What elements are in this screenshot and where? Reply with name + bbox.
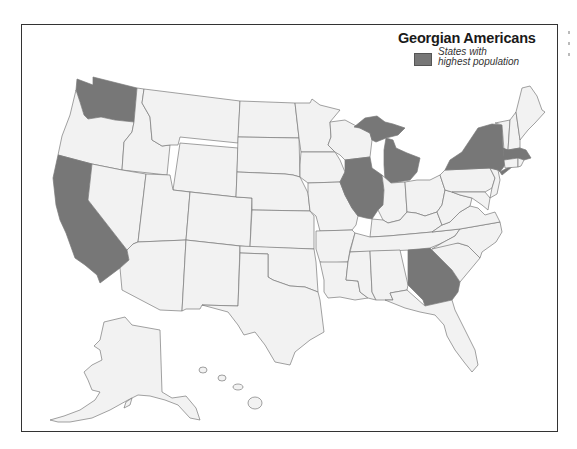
legend-label: States with highest population [438,47,548,67]
state-kansas[interactable] [250,210,314,249]
state-michigan-lower[interactable] [384,138,420,183]
state-wyoming[interactable] [173,143,238,197]
hawaii-maui [233,384,243,390]
edge-marks [568,31,571,64]
state-rhode-island[interactable] [518,158,524,167]
legend-label-line2: highest population [438,57,548,67]
alaska[interactable] [50,317,200,422]
state-new-mexico[interactable] [182,240,240,311]
state-iowa[interactable] [300,152,345,183]
legend-title: Georgian Americans [398,30,548,46]
state-connecticut[interactable] [504,158,518,168]
state-south-dakota[interactable] [237,137,300,177]
hawaii[interactable] [199,367,262,409]
us-map [0,0,577,449]
state-pennsylvania[interactable] [440,168,495,192]
state-colorado[interactable] [186,192,252,247]
state-north-dakota[interactable] [238,101,299,138]
hawaii-big-island [248,397,262,409]
legend-swatch [414,53,432,66]
state-maine[interactable] [516,86,545,140]
state-montana[interactable] [142,89,240,146]
legend-row: States with highest population [398,47,548,67]
hawaii-oahu [218,375,226,381]
state-washington[interactable] [76,77,137,122]
state-arizona[interactable] [120,240,186,311]
hawaii-kauai [199,367,207,373]
state-new-york[interactable] [445,124,505,172]
legend: Georgian Americans States with highest p… [398,30,548,67]
